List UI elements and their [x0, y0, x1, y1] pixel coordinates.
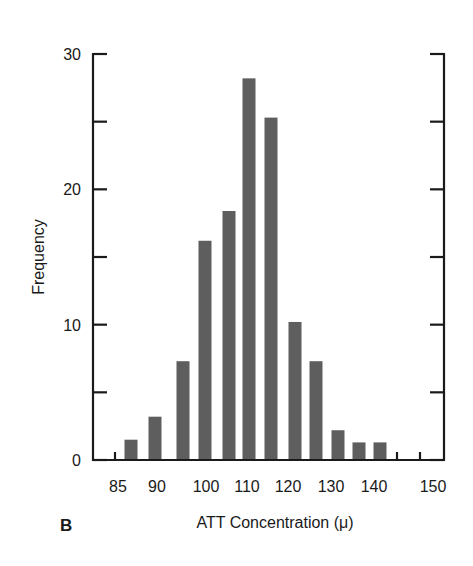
bar	[289, 322, 302, 460]
y-tick-label: 30	[63, 46, 81, 63]
x-tick-label: 130	[318, 478, 345, 495]
y-tick-label: 20	[63, 181, 81, 198]
bar	[374, 442, 387, 460]
bar	[199, 241, 212, 460]
bar	[332, 430, 345, 460]
y-tick-label: 10	[63, 317, 81, 334]
bar-series	[125, 78, 387, 460]
histogram-chart: 0102030 8590100110120130140150 Frequency…	[0, 0, 473, 566]
y-tick-label: 0	[72, 452, 81, 469]
x-tick-label: 150	[420, 478, 447, 495]
x-tick-labels: 8590100110120130140150	[109, 478, 446, 495]
x-tick-label: 100	[193, 478, 220, 495]
bar	[223, 211, 236, 460]
x-tick-label: 90	[148, 478, 166, 495]
x-axis-title: ATT Concentration (μ)	[196, 514, 353, 531]
panel-label: B	[60, 516, 72, 535]
x-tick-label: 85	[109, 478, 127, 495]
bar	[125, 440, 138, 460]
bar	[177, 361, 190, 460]
bar	[149, 417, 162, 460]
bar	[353, 442, 366, 460]
y-axis-title: Frequency	[30, 219, 47, 295]
bar	[310, 361, 323, 460]
x-tick-label: 110	[234, 478, 260, 495]
bar	[243, 78, 256, 460]
y-tick-labels: 0102030	[63, 46, 81, 469]
x-tick-label: 120	[275, 478, 302, 495]
x-tick-label: 140	[361, 478, 388, 495]
bar	[265, 118, 278, 460]
